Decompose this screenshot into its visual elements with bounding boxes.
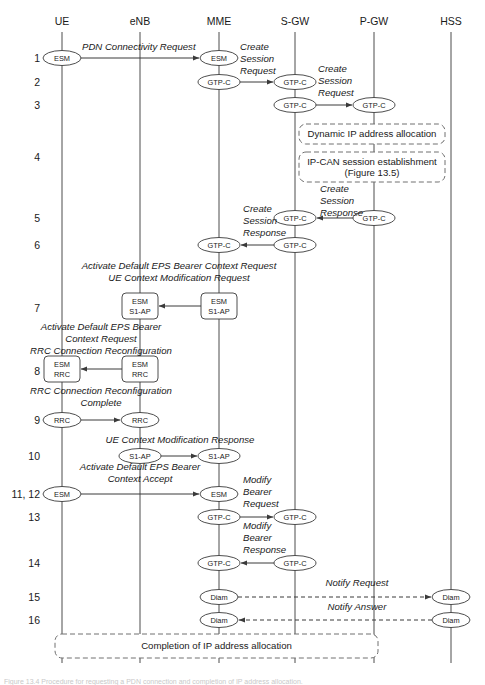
message-label: Notify Request <box>326 577 389 588</box>
message-label: Activate Default EPS Bearer <box>79 461 201 472</box>
protocol-node-label: ESM <box>132 360 148 369</box>
protocol-node-label: S1-AP <box>208 452 229 461</box>
protocol-node-label: GTP-C <box>208 513 232 522</box>
sequence-diagram: Dynamic IP address allocationIP-CAN sess… <box>0 0 485 685</box>
protocol-node-label: ESM <box>132 297 148 306</box>
message-label: Bearer <box>243 486 273 497</box>
message-label: Notify Answer <box>328 601 388 612</box>
message-label: Response <box>243 544 286 555</box>
message-label: Response <box>320 207 363 218</box>
protocol-node-label: RRC <box>132 370 149 379</box>
protocol-node-label: RRC <box>132 416 149 425</box>
dashed-box-text: Completion of IP address allocation <box>141 640 292 651</box>
step-number: 2 <box>34 76 40 88</box>
message-label: Complete <box>80 397 121 408</box>
step-number: 13 <box>28 511 40 523</box>
message-label: Modify <box>243 474 272 485</box>
actor-header-pgw: P-GW <box>360 15 389 27</box>
protocol-node-label: ESM <box>211 297 227 306</box>
step-number: 11, 12 <box>12 488 41 500</box>
step-numbers-layer: 1234567891011, 1213141516 <box>12 52 41 626</box>
protocol-node-label: GTP-C <box>363 101 387 110</box>
protocol-node-label: GTP-C <box>284 78 308 87</box>
protocol-node-label: ESM <box>54 490 70 499</box>
protocol-node-label: ESM <box>211 54 227 63</box>
dashed-box-text: (Figure 13.5) <box>345 167 400 178</box>
protocol-node-esm: ESM <box>200 487 238 502</box>
protocol-node-gtp-c: GTP-C <box>198 75 240 90</box>
protocol-node-label: S1-AP <box>129 307 150 316</box>
message-label: UE Context Modification Response <box>106 434 255 445</box>
message-label: Response <box>243 227 286 238</box>
protocol-node-label: Diam <box>210 593 227 602</box>
protocol-node-label: GTP-C <box>284 101 308 110</box>
message-label: Context Request <box>65 333 137 344</box>
message-label: PDN Connectivity Request <box>82 41 196 52</box>
actor-header-sgw: S-GW <box>281 15 310 27</box>
protocol-node-diam: Diam <box>432 613 470 628</box>
message-label: Session <box>240 53 274 64</box>
protocol-node-s1-ap: S1-AP <box>198 449 240 464</box>
actor-header-hss: HSS <box>440 15 462 27</box>
protocol-node-esm: ESM <box>43 51 81 66</box>
message-label: Modify <box>243 520 272 531</box>
protocol-node-gtp-c: GTP-C <box>198 556 240 571</box>
message-label: Context Accept <box>108 473 173 484</box>
step-number: 16 <box>28 614 40 626</box>
dashed-box-text: IP-CAN session establishment <box>307 156 437 167</box>
step-number: 14 <box>28 557 40 569</box>
figure-caption: Figure 13.4 Procedure for requesting a P… <box>4 678 482 685</box>
message-label: RRC Connection Reconfiguration <box>30 345 172 356</box>
protocol-node-esm: ESM <box>43 487 81 502</box>
message-label: Session <box>318 75 352 86</box>
protocol-node-gtp-c: GTP-C <box>274 211 316 226</box>
step-number: 10 <box>28 450 40 462</box>
dashed-box-text: Dynamic IP address allocation <box>308 128 437 139</box>
message-label: Session <box>243 215 277 226</box>
step-number: 3 <box>34 99 40 111</box>
sequence-diagram-canvas: Dynamic IP address allocationIP-CAN sess… <box>0 0 485 685</box>
message-label: Activate Default EPS Bearer <box>40 321 162 332</box>
protocol-node-label: Diam <box>442 593 459 602</box>
protocol-node-label: GTP-C <box>363 214 387 223</box>
protocol-node-label: S1-AP <box>208 307 229 316</box>
step-number: 9 <box>34 414 40 426</box>
protocol-node-label: Diam <box>210 616 227 625</box>
protocol-node-label: ESM <box>54 360 70 369</box>
protocol-node-gtp-c: GTP-C <box>274 98 316 113</box>
box-completion: Completion of IP address allocation <box>55 634 378 658</box>
protocol-node-esm-rrc: ESMRRC <box>122 356 158 382</box>
message-label: Create <box>243 203 272 214</box>
message-label: RRC Connection Reconfiguration <box>30 385 172 396</box>
protocol-node-label: Diam <box>442 616 459 625</box>
protocol-node-gtp-c: GTP-C <box>198 238 240 253</box>
step-number: 5 <box>34 212 40 224</box>
protocol-node-gtp-c: GTP-C <box>274 75 316 90</box>
protocol-node-diam: Diam <box>432 590 470 605</box>
actor-header-enb: eNB <box>130 15 150 27</box>
protocol-node-diam: Diam <box>200 613 238 628</box>
step-number: 6 <box>34 239 40 251</box>
protocol-node-label: GTP-C <box>208 559 232 568</box>
protocol-node-gtp-c: GTP-C <box>274 510 316 525</box>
protocol-node-esm: ESM <box>200 51 238 66</box>
protocol-node-gtp-c: GTP-C <box>198 510 240 525</box>
message-label: Create <box>320 183 349 194</box>
step-number: 8 <box>34 365 40 377</box>
actor-headers-layer: UEeNBMMES-GWP-GWHSS <box>55 15 462 27</box>
protocol-node-label: GTP-C <box>284 241 308 250</box>
protocol-node-label: GTP-C <box>208 78 232 87</box>
message-label: Create <box>240 41 269 52</box>
message-label: Activate Default EPS Bearer Context Requ… <box>81 260 277 271</box>
protocol-node-esm-s1-ap: ESMS1-AP <box>122 293 158 319</box>
protocol-node-label: GTP-C <box>284 513 308 522</box>
message-label: Bearer <box>243 532 273 543</box>
message-label: Request <box>318 87 354 98</box>
protocol-node-label: ESM <box>211 490 227 499</box>
protocol-node-gtp-c: GTP-C <box>274 556 316 571</box>
protocol-node-rrc: RRC <box>121 413 159 428</box>
step-number: 4 <box>34 151 40 163</box>
message-label: Session <box>320 195 354 206</box>
box-dynamic-ip: Dynamic IP address allocation <box>299 124 445 144</box>
protocol-node-label: RRC <box>54 370 71 379</box>
